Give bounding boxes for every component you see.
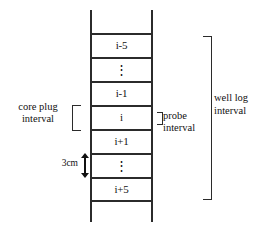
cell-label-i-minus-5: i-5 <box>90 39 153 51</box>
rung-divider <box>90 33 153 35</box>
core-plug-interval-bracket-icon <box>72 105 81 131</box>
rung-divider <box>90 200 153 202</box>
rung-divider <box>90 81 153 83</box>
rung-divider <box>90 153 153 155</box>
cell-label-ellipsis-upper: ⋮ <box>90 65 153 75</box>
cell-label-i-minus-1: i-1 <box>90 87 153 99</box>
arrow-shaft <box>84 157 86 174</box>
well-log-interval-label-line1: well log <box>214 91 268 104</box>
core-plug-interval-label: core plug interval <box>8 101 68 125</box>
rung-divider <box>90 57 153 59</box>
well-log-interval-bracket-icon <box>203 36 212 200</box>
cell-label-ellipsis-lower: ⋮ <box>90 161 153 171</box>
double-arrow-icon <box>80 153 90 178</box>
cell-label-i-plus-1: i+1 <box>90 135 153 147</box>
core-plug-interval-label-line2: interval <box>8 113 68 125</box>
diagram-canvas: i-5 ⋮ i-1 i i+1 ⋮ i+5 core plug interval… <box>0 0 270 230</box>
well-log-interval-label-line2: interval <box>214 104 268 117</box>
core-plug-interval-label-line1: core plug <box>8 101 68 113</box>
cell-label-i: i <box>90 111 153 123</box>
scale-label: 3cm <box>50 158 78 168</box>
cell-label-i-plus-5: i+5 <box>90 183 153 195</box>
well-log-interval-label: well log interval <box>214 91 268 117</box>
rung-divider <box>90 129 153 131</box>
core-column-ladder: i-5 ⋮ i-1 i i+1 ⋮ i+5 <box>90 10 153 222</box>
arrow-head-down-icon <box>81 173 89 178</box>
rung-divider <box>90 105 153 107</box>
rung-divider <box>90 177 153 179</box>
